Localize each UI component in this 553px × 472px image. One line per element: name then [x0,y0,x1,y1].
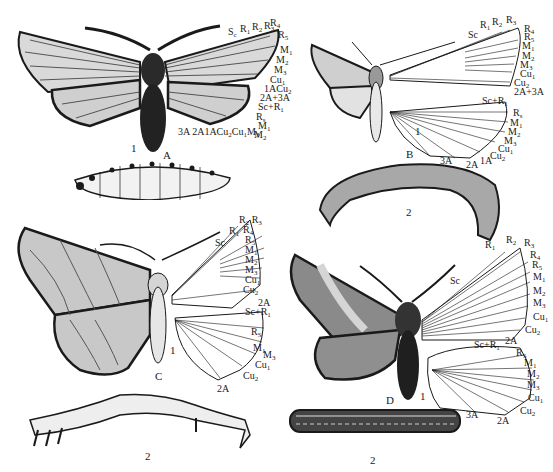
moth-d-illustration [280,230,553,472]
b-vein-2a3a: 2A+3A [514,87,544,97]
figure-letter-d: D [386,394,394,406]
b-vein-sc: Sc [468,30,478,40]
panel-b: Sc R1 R2 R3 R4 R5 M1 M2 M3 Cu1 Cu2 2A+3A… [280,0,553,250]
d-vein-h3a: 3A [466,410,478,420]
b-vein-scr1: Sc+R1 [482,96,508,109]
b-vein-r2: R2 [492,17,502,30]
d-vein-m1: M1 [533,272,545,285]
figure-letter-b: B [406,148,413,160]
c-vein-sc: Sc [215,238,225,248]
c-vein-hm1: M1 [253,343,265,356]
b-vein-r3: R3 [506,15,516,28]
c-vein-h2a: 2A [217,384,229,394]
figure-letter-a: A [163,149,171,161]
b-vein-1a: 1A [480,156,492,166]
panel-d: R1 R2 R3 R4 R5 Sc M1 M2 M3 Cu1 Cu2 2A Sc… [280,230,553,472]
b-vein-r1: R1 [480,20,490,33]
vein-label-r2: R2 [252,22,262,35]
larva-label-c: 2 [145,450,151,462]
d-vein-m3: M3 [533,298,545,311]
moth-c-illustration [0,220,280,472]
larva-label-b: 2 [406,206,412,218]
d-vein-cu2: Cu2 [525,325,540,338]
moth-a-illustration [0,0,280,200]
adult-label-a: 1 [131,142,137,154]
vein-label-r1: R1 [240,24,250,37]
panel-c: R1 Sc 2A Cu2 2A M3 Cu1 1 C 2 [0,220,280,472]
larva-label-d: 2 [370,454,376,466]
vein-label-hm2: M2 [254,130,266,143]
c-vein-scr1: Sc+R1 [245,307,271,320]
adult-label-b: 1 [415,125,421,137]
vein-label-bottom-a: 3A 2A1ACu2Cu1M3 [178,127,259,140]
d-vein-scr1: Sc+R1 [474,340,500,353]
vein-label-sc: Sc [228,27,237,40]
d-vein-h2a: 2A [497,416,509,426]
c-vein-cu2: Cu2 [243,285,258,298]
adult-label-c: 1 [170,344,176,356]
adult-label-d: 1 [420,390,426,402]
c-vein-rs: RS [251,327,262,340]
c-vein-r1: R1 [229,226,239,239]
d-vein-r2: R2 [506,235,516,248]
b-vein-hcu2: Cu2 [490,151,505,164]
panel-a: Sc R1 R2 R3 3A 2A1ACu2Cu1M3 1 A [0,0,280,200]
d-vein-hcu2: Cu2 [520,406,535,419]
d-vein-sc: Sc [450,276,460,286]
b-vein-2a: 2A [466,160,478,170]
d-vein-r1: R1 [485,240,495,253]
b-vein-3a: 3A [440,156,452,166]
d-vein-2a: 2A [505,336,517,346]
figure-letter-c: C [155,370,162,382]
